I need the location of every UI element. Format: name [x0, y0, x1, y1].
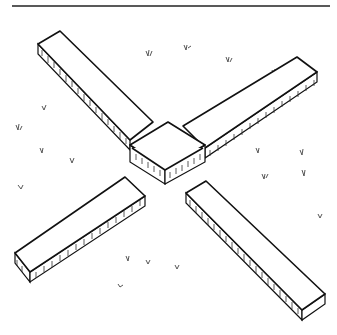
illustration-canvas [0, 0, 337, 335]
plank-sw [15, 177, 145, 282]
plank-ne [183, 57, 317, 158]
plank-nw [38, 31, 153, 150]
plank-se [186, 181, 325, 320]
